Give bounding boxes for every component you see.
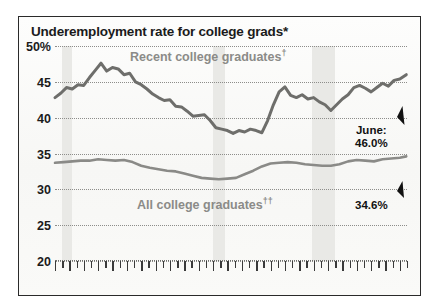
x-axis-tick [148, 261, 149, 268]
x-axis-tick [235, 261, 236, 268]
y-axis-tick-label: 25 [37, 219, 51, 233]
x-axis-tick [105, 261, 106, 268]
plot-area: 50%454035302520 1990'95'00'05'10'14 Rece… [55, 46, 407, 261]
x-axis-tick [306, 261, 307, 268]
x-axis-tick [134, 261, 135, 268]
x-axis-tick [199, 261, 200, 271]
x-axis-tick [69, 261, 70, 271]
x-axis-tick [271, 261, 272, 271]
series-label-all-college-graduates: All college graduates†† [137, 196, 273, 212]
annotation-line: 46.0% [355, 137, 388, 150]
series-label-footnote: †† [263, 196, 273, 206]
y-axis-tick-label: 20 [37, 255, 51, 269]
x-axis-tick [206, 261, 207, 268]
x-axis-tick [299, 261, 300, 271]
x-axis-tick [335, 261, 336, 268]
x-axis-tick [378, 261, 379, 268]
x-axis-tick [278, 261, 279, 268]
x-axis-tick [163, 261, 164, 268]
series-label-recent-college-graduates: Recent college graduates† [130, 48, 286, 64]
x-axis-tick [285, 261, 286, 271]
line-all-college-graduates [55, 156, 406, 179]
pointer-arrow-recent-icon [391, 105, 407, 129]
x-axis-tick [364, 261, 365, 268]
x-axis-tick [385, 261, 386, 271]
annotation-all-grads: 34.6% [355, 199, 388, 212]
y-axis-tick-label: 30 [37, 183, 51, 197]
x-axis-tick [314, 261, 315, 271]
x-axis-tick [91, 261, 92, 268]
series-label-text: All college graduates [137, 198, 263, 212]
x-axis-tick [62, 261, 63, 268]
x-axis-tick [184, 261, 185, 271]
x-axis-tick [98, 261, 99, 271]
x-axis-tick [227, 261, 228, 271]
x-axis-tick [357, 261, 358, 271]
x-axis-tick [77, 261, 78, 268]
chart-figure: Underemployment rate for college grads* … [18, 16, 421, 296]
chart-title: Underemployment rate for college grads* [31, 24, 288, 39]
x-axis-tick [84, 261, 85, 271]
x-axis-tick [141, 261, 142, 271]
x-axis-tick [342, 261, 343, 271]
x-axis-tick [242, 261, 243, 271]
y-axis-tick-label: 35 [37, 148, 51, 162]
series-label-text: Recent college graduates [130, 50, 281, 64]
x-axis-tick [177, 261, 178, 268]
annotation-line: June: [355, 124, 388, 137]
series-label-footnote: † [281, 48, 286, 58]
x-axis-tick [371, 261, 372, 271]
x-axis-tick [292, 261, 293, 268]
x-axis-tick [220, 261, 221, 268]
x-axis-tick [127, 261, 128, 271]
x-axis-tick [321, 261, 322, 268]
x-axis-tick [112, 261, 113, 271]
pointer-arrow-all-icon [391, 180, 407, 202]
x-axis-tick [156, 261, 157, 271]
x-axis-tick [170, 261, 171, 271]
y-axis-tick-label: 40 [37, 112, 51, 126]
x-axis-tick [55, 261, 56, 271]
x-axis-tick [350, 261, 351, 268]
x-axis-tick [213, 261, 214, 271]
annotation-line: 34.6% [355, 199, 388, 212]
x-axis-tick [393, 261, 394, 268]
series-lines [55, 46, 407, 261]
gridline: 20 [55, 261, 407, 262]
line-recent-college-graduates [55, 63, 406, 133]
annotation-recent-grads: June:46.0% [355, 124, 388, 150]
x-axis-tick [400, 261, 401, 271]
x-axis-tick [249, 261, 250, 268]
x-axis-tick [407, 261, 408, 268]
y-axis-tick-label: 45 [37, 76, 51, 90]
x-axis-tick [120, 261, 121, 268]
x-axis-tick [263, 261, 264, 268]
y-axis-tick-label: 50% [26, 40, 51, 54]
x-axis-tick [191, 261, 192, 268]
x-axis-tick [328, 261, 329, 271]
x-axis-tick [256, 261, 257, 271]
